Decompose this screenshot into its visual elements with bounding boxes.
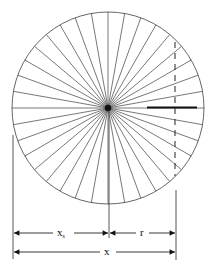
label-r: r	[140, 226, 144, 238]
dimension-xs: xs	[14, 226, 108, 239]
label-x: x	[104, 245, 110, 257]
diagram-canvas: xs r x	[0, 0, 210, 267]
dimension-r: r	[110, 226, 175, 238]
label-xs: xs	[57, 226, 66, 239]
center-hub	[105, 105, 111, 111]
dimension-x: x	[14, 245, 175, 257]
